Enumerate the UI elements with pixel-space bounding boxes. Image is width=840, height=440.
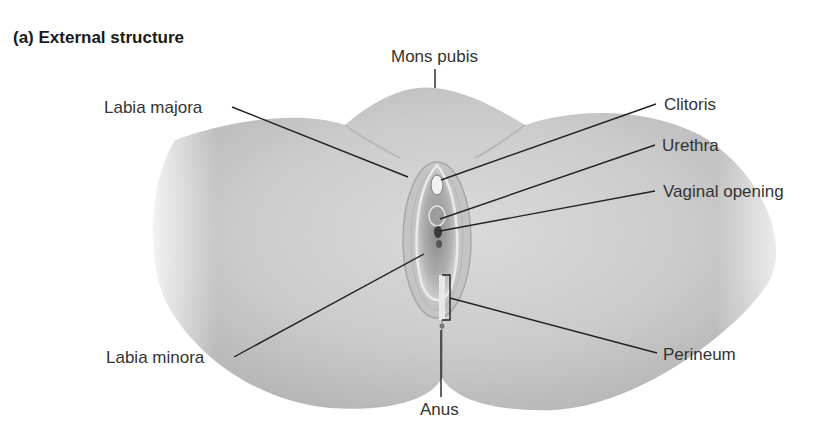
label-vaginal-opening: Vaginal opening (663, 183, 784, 200)
label-anus: Anus (420, 401, 459, 418)
label-mons-pubis: Mons pubis (391, 48, 478, 65)
label-perineum: Perineum (663, 346, 736, 363)
label-clitoris: Clitoris (664, 96, 716, 113)
label-labia-majora: Labia majora (104, 99, 202, 116)
figure-title: (a) External structure (13, 28, 184, 48)
label-labia-minora: Labia minora (106, 349, 204, 366)
label-urethra: Urethra (662, 137, 719, 154)
anatomy-illustration (0, 0, 840, 440)
